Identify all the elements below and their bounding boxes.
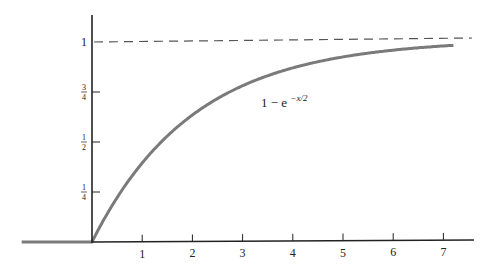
x-tick-label: 2 (189, 246, 195, 260)
y-tick-label-numerator: 1 (82, 133, 86, 142)
curve-label-base: 1 − e (261, 95, 287, 110)
y-tick-label-denominator: 2 (82, 143, 86, 152)
x-axis (92, 240, 474, 242)
y-tick-label: 1 (81, 35, 87, 49)
y-tick-label-numerator: 3 (82, 83, 86, 92)
curve-line (22, 45, 454, 242)
x-tick-label: 6 (390, 245, 396, 259)
curve-label-exponent: −x/2 (290, 93, 308, 103)
x-tick-label: 4 (290, 246, 296, 260)
x-ticks: 1234567 (139, 233, 446, 261)
x-tick-label: 1 (139, 247, 145, 261)
x-tick-label: 7 (440, 245, 446, 259)
x-tick-label: 3 (240, 246, 246, 260)
x-tick-label: 5 (340, 246, 346, 260)
y-tick-label-denominator: 4 (82, 93, 86, 102)
y-tick-label-numerator: 1 (82, 183, 86, 192)
asymptote-line (94, 38, 472, 42)
y-ticks: 1412341 (81, 35, 100, 202)
curve-label: 1 − e −x/2 (261, 93, 308, 110)
y-tick-label-denominator: 4 (82, 193, 86, 202)
chart-canvas: 1234567 1412341 1 − e −x/2 (0, 0, 490, 270)
